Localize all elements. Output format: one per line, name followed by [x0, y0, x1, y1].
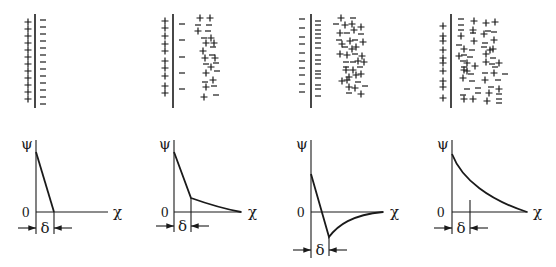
- diffuse-layer-charge-icon: [195, 28, 202, 35]
- diffuse-layer-charge-icon: [358, 24, 365, 31]
- diffuse-layer-charge-icon: [460, 75, 467, 82]
- psi-axis-label: ψ: [21, 135, 33, 153]
- double-layer-diagram: ψ0χδψ0χδψ0χδψ0χδ: [0, 0, 556, 267]
- surface-positive-charge-icon: [162, 83, 169, 90]
- surface-positive-charge-icon: [25, 68, 32, 75]
- diffuse-layer-charge-icon: [360, 39, 367, 46]
- psi-axis-label: ψ: [296, 135, 308, 153]
- surface-positive-charge-icon: [440, 84, 447, 91]
- diffuse-layer-charge-icon: [472, 63, 479, 70]
- charge-distribution: [162, 14, 221, 108]
- diffuse-layer-charge-icon: [359, 53, 366, 60]
- potential-graph: ψ0χδ: [293, 135, 399, 259]
- origin-label: 0: [437, 204, 445, 220]
- diffuse-layer-charge-icon: [483, 59, 490, 66]
- diffuse-layer-charge-icon: [344, 52, 351, 59]
- diffuse-layer-charge-icon: [342, 22, 349, 29]
- diffuse-layer-charge-icon: [346, 84, 353, 91]
- diffuse-layer-charge-icon: [210, 77, 217, 84]
- diffuse-layer-charge-icon: [458, 33, 465, 40]
- diffuse-layer-charge-icon: [347, 38, 354, 45]
- surface-positive-charge-icon: [440, 78, 447, 85]
- panels-group: ψ0χδψ0χδψ0χδψ0χδ: [18, 14, 542, 259]
- diffuse-layer-charge-icon: [349, 21, 356, 28]
- diffuse-layer-charge-icon: [207, 15, 214, 22]
- potential-curve: [452, 154, 527, 212]
- potential-curve: [174, 152, 241, 212]
- delta-label: δ: [178, 217, 187, 235]
- surface-positive-charge-icon: [162, 18, 169, 25]
- diffuse-layer-charge-icon: [339, 78, 346, 85]
- potential-curve: [311, 174, 383, 237]
- diffuse-layer-charge-icon: [337, 51, 344, 58]
- surface-positive-charge-icon: [25, 33, 32, 40]
- diffuse-layer-charge-icon: [358, 71, 365, 78]
- diffuse-layer-charge-icon: [461, 96, 468, 103]
- surface-positive-charge-icon: [25, 89, 32, 96]
- diffuse-layer-charge-icon: [358, 91, 365, 98]
- chi-axis-label: χ: [113, 203, 122, 221]
- surface-positive-charge-icon: [162, 58, 169, 65]
- potential-graph: ψ0χδ: [18, 135, 122, 237]
- surface-positive-charge-icon: [25, 96, 32, 103]
- surface-positive-charge-icon: [25, 82, 32, 89]
- surface-positive-charge-icon: [162, 33, 169, 40]
- diffuse-layer-charge-icon: [197, 15, 204, 22]
- charge-distribution: [25, 14, 47, 108]
- delta-label: δ: [41, 219, 50, 237]
- surface-positive-charge-icon: [25, 19, 32, 26]
- diffuse-layer-charge-icon: [202, 55, 209, 62]
- diffuse-layer-charge-icon: [201, 94, 208, 101]
- diffuse-layer-charge-icon: [200, 48, 207, 55]
- surface-positive-charge-icon: [162, 90, 169, 97]
- psi-axis-label: ψ: [159, 135, 171, 153]
- diffuse-layer-charge-icon: [351, 27, 358, 34]
- diffuse-layer-charge-icon: [203, 84, 210, 91]
- surface-positive-charge-icon: [440, 95, 447, 102]
- diffuse-layer-charge-icon: [471, 18, 478, 25]
- diffuse-layer-charge-icon: [483, 20, 490, 27]
- potential-graph: ψ0χδ: [434, 135, 542, 237]
- diffuse-layer-charge-icon: [492, 19, 499, 26]
- delta-label: δ: [457, 219, 466, 237]
- diffuse-layer-charge-icon: [491, 70, 498, 77]
- diffuse-layer-charge-icon: [470, 96, 477, 103]
- charge-distribution: [440, 14, 509, 108]
- delta-label: δ: [316, 241, 325, 259]
- diffuse-layer-charge-icon: [486, 90, 493, 97]
- diffuse-layer-charge-icon: [352, 85, 359, 92]
- potential-curve: [36, 152, 54, 212]
- diffuse-layer-charge-icon: [496, 60, 503, 67]
- surface-positive-charge-icon: [25, 47, 32, 54]
- chi-axis-label: χ: [390, 203, 399, 221]
- origin-label: 0: [297, 204, 305, 220]
- surface-positive-charge-icon: [440, 60, 447, 67]
- panel-gouy_chapman: ψ0χδ: [434, 14, 542, 237]
- charge-distribution: [299, 14, 368, 108]
- diffuse-layer-charge-icon: [471, 38, 478, 45]
- diffuse-layer-charge-icon: [355, 58, 362, 65]
- surface-positive-charge-icon: [440, 68, 447, 75]
- diffuse-layer-charge-icon: [338, 15, 345, 22]
- panel-specific_adsorption: ψ0χδ: [293, 14, 399, 259]
- surface-positive-charge-icon: [25, 40, 32, 47]
- origin-label: 0: [161, 204, 169, 220]
- diffuse-layer-charge-icon: [483, 51, 490, 58]
- surface-positive-charge-icon: [440, 38, 447, 45]
- potential-graph: ψ0χδ: [156, 135, 257, 235]
- diffuse-layer-charge-icon: [461, 46, 468, 53]
- surface-positive-charge-icon: [25, 26, 32, 33]
- surface-positive-charge-icon: [162, 48, 169, 55]
- chi-axis-label: χ: [533, 203, 542, 221]
- surface-positive-charge-icon: [25, 61, 32, 68]
- diffuse-layer-charge-icon: [337, 30, 344, 37]
- origin-label: 0: [22, 204, 30, 220]
- chi-axis-label: χ: [248, 203, 257, 221]
- diffuse-layer-charge-icon: [484, 98, 491, 105]
- diffuse-layer-charge-icon: [482, 77, 489, 84]
- surface-positive-charge-icon: [25, 54, 32, 61]
- surface-positive-charge-icon: [25, 75, 32, 82]
- surface-positive-charge-icon: [440, 23, 447, 30]
- surface-positive-charge-icon: [162, 65, 169, 72]
- surface-positive-charge-icon: [162, 73, 169, 80]
